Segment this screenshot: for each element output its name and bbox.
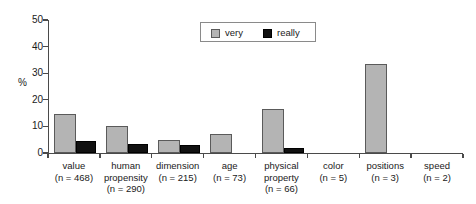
y-tick-label-wrap: 40	[0, 42, 43, 52]
y-tick-label: 40	[13, 42, 43, 52]
category-count: (n = 3)	[359, 172, 411, 184]
bar-group	[359, 20, 411, 153]
category-label: physicalproperty(n = 66)	[256, 160, 308, 195]
y-tick-label-wrap: 50	[0, 15, 43, 25]
legend-label: really	[277, 28, 300, 38]
x-tick-mark	[462, 154, 463, 158]
category-label: dimension(n = 215)	[152, 160, 204, 183]
bar-really	[128, 144, 148, 153]
category-label: age(n = 73)	[204, 160, 256, 183]
x-tick-mark	[99, 154, 100, 158]
x-tick-mark	[359, 154, 360, 158]
legend-item: very	[211, 27, 243, 39]
y-tick-label: 10	[13, 121, 43, 131]
bar-group	[152, 20, 204, 153]
legend-label: very	[225, 28, 243, 38]
bar-very	[262, 109, 284, 153]
y-tick-label: 30	[13, 68, 43, 78]
category-label: humanpropensity(n = 290)	[100, 160, 152, 195]
category-count: (n = 215)	[152, 172, 204, 184]
y-tick-label: 0	[13, 148, 43, 158]
x-tick-mark	[410, 154, 411, 158]
category-name: property	[256, 172, 308, 184]
x-tick-mark	[151, 154, 152, 158]
y-tick-label: 20	[13, 95, 43, 105]
bar-really	[180, 145, 200, 153]
category-count: (n = 468)	[48, 172, 100, 184]
bar-very	[158, 140, 180, 153]
y-tick-label-wrap: 30	[0, 68, 43, 78]
category-name: physical	[256, 160, 308, 172]
category-name: color	[307, 160, 359, 172]
chart-legend: veryreally	[200, 22, 316, 42]
category-name: age	[204, 160, 256, 172]
y-tick-label: 50	[13, 15, 43, 25]
category-count: (n = 5)	[307, 172, 359, 184]
category-name: human	[100, 160, 152, 172]
bar-really	[76, 141, 96, 153]
bar-group	[48, 20, 100, 153]
category-label: value(n = 468)	[48, 160, 100, 183]
category-name: dimension	[152, 160, 204, 172]
category-name: propensity	[100, 172, 152, 184]
legend-swatch-very	[211, 29, 220, 38]
x-tick-mark	[255, 154, 256, 158]
category-label: speed(n = 2)	[411, 160, 463, 183]
category-name: positions	[359, 160, 411, 172]
category-count: (n = 2)	[411, 172, 463, 184]
category-count: (n = 66)	[256, 183, 308, 195]
category-name: speed	[411, 160, 463, 172]
y-tick-label-wrap: 10	[0, 121, 43, 131]
bar-group	[411, 20, 463, 153]
bar-chart: % 01020304050 value(n = 468)humanpropens…	[0, 0, 476, 204]
bar-very	[210, 134, 232, 153]
y-tick-label-wrap: 20	[0, 95, 43, 105]
category-count: (n = 290)	[100, 183, 152, 195]
bar-very	[54, 114, 76, 153]
bar-very	[106, 126, 128, 153]
x-tick-mark	[307, 154, 308, 158]
category-label: positions(n = 3)	[359, 160, 411, 183]
bar-group	[100, 20, 152, 153]
bar-very	[365, 64, 387, 153]
y-tick-label-wrap: 0	[0, 148, 43, 158]
legend-swatch-really	[263, 29, 272, 38]
y-axis-label: %	[18, 78, 27, 88]
category-label: color(n = 5)	[307, 160, 359, 183]
x-tick-mark	[203, 154, 204, 158]
category-name: value	[48, 160, 100, 172]
bar-really	[284, 148, 304, 153]
x-tick-mark	[47, 154, 48, 158]
legend-item: really	[263, 27, 300, 39]
category-count: (n = 73)	[204, 172, 256, 184]
